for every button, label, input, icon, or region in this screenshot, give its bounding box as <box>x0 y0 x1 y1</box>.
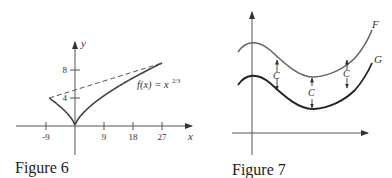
y-axis-label: y <box>80 37 86 49</box>
x-tick-label: 18 <box>129 132 139 142</box>
curve-G <box>238 63 372 109</box>
y-tick-label: 4 <box>63 93 68 103</box>
curve-G-label: G <box>374 53 382 65</box>
figure-6-caption: Figure 6 <box>15 159 69 177</box>
x-tick-label: 9 <box>102 132 107 142</box>
figures-canvas: x y -991827 48 f(x) = x 2/3 Figure 6 F G… <box>0 0 392 178</box>
offset-label: C <box>343 68 350 79</box>
offset-arrow: C <box>273 60 280 90</box>
y-tick-label: 8 <box>63 65 68 75</box>
x-tick-label: -9 <box>42 132 50 142</box>
figure-7-caption: Figure 7 <box>232 161 286 178</box>
offset-arrow: C <box>308 78 315 108</box>
function-label: f(x) = x <box>137 79 169 91</box>
x-tick-label: 27 <box>158 132 168 142</box>
curve-F-label: F <box>371 18 379 30</box>
function-exponent: 2/3 <box>172 77 180 84</box>
curve-F <box>238 30 372 77</box>
offset-label: C <box>273 70 280 81</box>
offset-label: C <box>308 87 315 98</box>
figure-6: x y -991827 48 f(x) = x 2/3 Figure 6 <box>15 37 193 177</box>
x-axis-label: x <box>187 130 193 142</box>
figure-7: F G C C C Figure 7 <box>232 12 382 178</box>
